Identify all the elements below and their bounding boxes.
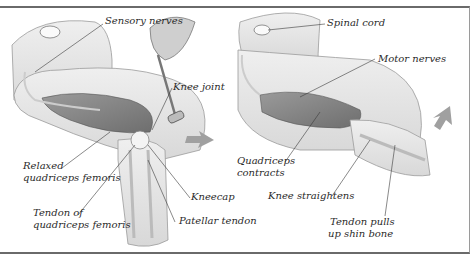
- label-motor-nerves: Motor nerves: [378, 53, 446, 64]
- label-patellar-tendon: Patellar tendon: [179, 215, 257, 226]
- label-relaxed-1: Relaxed: [23, 160, 64, 171]
- label-sensory-nerves: Sensory nerves: [105, 15, 183, 26]
- spinal-cord-section-icon: [40, 26, 60, 38]
- label-tendon-of-1: Tendon of: [33, 207, 83, 218]
- label-quadriceps-contracts-2: contracts: [237, 167, 285, 178]
- label-tendon-pulls-1: Tendon pulls: [330, 216, 395, 227]
- label-spinal-cord: Spinal cord: [327, 17, 385, 28]
- label-knee-straightens: Knee straightens: [268, 190, 354, 201]
- label-tendon-of-2: quadriceps femoris: [33, 219, 131, 230]
- right-leg: [238, 13, 430, 176]
- label-quadriceps-contracts-1: Quadriceps: [237, 155, 295, 166]
- label-kneecap: Kneecap: [191, 191, 235, 202]
- label-knee-joint: Knee joint: [173, 81, 225, 92]
- spinal-cord-section-icon-2: [254, 25, 270, 35]
- label-tendon-pulls-2: up shin bone: [328, 228, 393, 239]
- kick-arrow-icon: [433, 106, 452, 130]
- label-relaxed-2: quadriceps femoris: [23, 172, 121, 183]
